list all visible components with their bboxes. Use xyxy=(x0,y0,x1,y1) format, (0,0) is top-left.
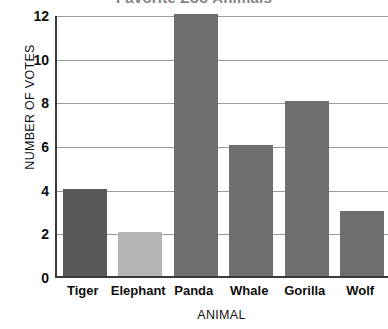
x-axis-tick-labels: TigerElephantPandaWhaleGorillaWolf xyxy=(55,283,388,303)
bar-gorilla xyxy=(285,101,329,276)
plot-area xyxy=(55,16,388,278)
bar-tiger xyxy=(63,189,107,276)
x-tick-label-elephant: Elephant xyxy=(111,283,167,298)
y-tick-label-10: 10 xyxy=(0,52,49,68)
y-tick-label-4: 4 xyxy=(0,183,49,199)
chart-title: Favorite Zoo Animals xyxy=(0,0,388,6)
y-tick-label-12: 12 xyxy=(0,8,49,24)
bar-chart: Favorite Zoo Animals NUMBER OF VOTES 024… xyxy=(0,0,388,329)
x-axis-title: ANIMAL xyxy=(55,308,388,322)
x-tick-label-wolf: Wolf xyxy=(333,283,388,298)
y-tick-label-0: 0 xyxy=(0,270,49,286)
bar-wolf xyxy=(340,211,384,277)
y-tick-label-2: 2 xyxy=(0,226,49,242)
y-tick-label-6: 6 xyxy=(0,139,49,155)
y-tick-label-8: 8 xyxy=(0,95,49,111)
bars-layer xyxy=(57,16,388,276)
x-tick-label-tiger: Tiger xyxy=(55,283,111,298)
gridline-0 xyxy=(57,278,388,279)
bar-whale xyxy=(229,145,273,276)
x-tick-label-panda: Panda xyxy=(166,283,222,298)
y-axis-tick-labels: 024681012 xyxy=(0,16,49,278)
bar-panda xyxy=(174,14,218,276)
x-tick-label-gorilla: Gorilla xyxy=(277,283,333,298)
bar-elephant xyxy=(118,232,162,276)
x-tick-label-whale: Whale xyxy=(222,283,278,298)
